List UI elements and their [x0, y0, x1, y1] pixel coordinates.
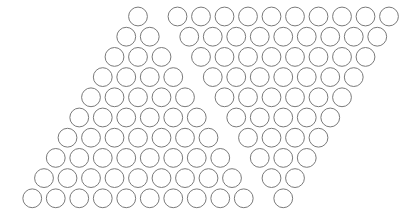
circle-marker: [70, 149, 89, 168]
circle-marker: [180, 27, 199, 46]
circle-marker: [344, 27, 363, 46]
circle-marker: [286, 7, 305, 26]
circle-marker: [368, 27, 387, 46]
circle-row: [46, 149, 229, 168]
circle-marker: [239, 7, 258, 26]
circle-marker: [223, 169, 242, 188]
circle-row: [82, 88, 195, 107]
circle-marker: [82, 128, 101, 147]
circle-marker: [129, 128, 148, 147]
circle-marker: [262, 169, 281, 188]
circle-marker: [274, 68, 293, 87]
circle-marker: [164, 108, 183, 127]
circle-marker: [274, 108, 293, 127]
circle-marker: [70, 189, 89, 208]
circle-marker: [239, 128, 258, 147]
circle-marker: [309, 88, 328, 107]
figure-root: [0, 0, 411, 219]
circle-marker: [262, 88, 281, 107]
circle-marker: [333, 48, 352, 67]
circle-marker: [23, 189, 42, 208]
circle-row: [35, 169, 242, 188]
circle-marker: [274, 27, 293, 46]
circle-marker: [129, 169, 148, 188]
circle-marker: [152, 48, 171, 67]
circle-marker: [286, 169, 305, 188]
circle-marker: [105, 88, 124, 107]
circle-marker: [176, 128, 195, 147]
circle-marker: [227, 27, 246, 46]
circle-marker: [176, 88, 195, 107]
circle-marker: [250, 149, 269, 168]
circle-marker: [164, 189, 183, 208]
circle-marker: [286, 48, 305, 67]
circle-row: [168, 7, 398, 26]
circle-marker: [321, 108, 340, 127]
circle-marker: [239, 88, 258, 107]
circle-marker: [309, 48, 328, 67]
circle-row: [227, 108, 340, 127]
circle-marker: [140, 108, 159, 127]
circle-marker: [140, 189, 159, 208]
circle-group-left-triangle: [23, 7, 253, 208]
circle-row: [117, 27, 159, 46]
circle-marker: [262, 128, 281, 147]
circle-marker: [82, 88, 101, 107]
circle-marker: [297, 27, 316, 46]
circle-marker: [129, 7, 148, 26]
circle-marker: [129, 48, 148, 67]
circle-row: [93, 68, 182, 87]
circle-marker: [105, 128, 124, 147]
circle-marker: [105, 169, 124, 188]
circle-marker: [250, 27, 269, 46]
circle-marker: [262, 48, 281, 67]
circle-marker: [164, 68, 183, 87]
circle-marker: [309, 128, 328, 147]
circle-marker: [211, 149, 230, 168]
circle-marker: [344, 68, 363, 87]
circle-row: [180, 27, 387, 46]
circle-marker: [140, 68, 159, 87]
circle-marker: [152, 128, 171, 147]
circle-row: [105, 48, 171, 67]
circle-marker: [203, 68, 222, 87]
circle-row: [70, 108, 206, 127]
circle-marker: [58, 128, 77, 147]
circle-marker: [286, 88, 305, 107]
circle-marker: [274, 189, 293, 208]
circle-marker: [93, 108, 112, 127]
circle-marker: [93, 149, 112, 168]
circle-marker: [93, 189, 112, 208]
circle-marker: [215, 48, 234, 67]
circle-marker: [333, 7, 352, 26]
circle-marker: [199, 169, 218, 188]
circle-row: [262, 169, 304, 188]
circle-row: [58, 128, 218, 147]
circle-marker: [234, 189, 253, 208]
circle-marker: [192, 7, 211, 26]
circle-marker: [286, 128, 305, 147]
circle-row: [192, 48, 375, 67]
circle-marker: [70, 108, 89, 127]
circle-marker: [117, 68, 136, 87]
circle-marker: [297, 68, 316, 87]
circle-marker: [82, 169, 101, 188]
circle-row: [203, 68, 363, 87]
circle-marker: [239, 48, 258, 67]
circle-marker: [105, 48, 124, 67]
circle-marker: [58, 169, 77, 188]
circle-marker: [140, 27, 159, 46]
circle-marker: [176, 169, 195, 188]
circle-marker: [321, 27, 340, 46]
circle-marker: [187, 189, 206, 208]
circle-marker: [117, 108, 136, 127]
circle-marker: [250, 68, 269, 87]
circle-marker: [117, 189, 136, 208]
circle-marker: [152, 88, 171, 107]
circle-marker: [203, 27, 222, 46]
circle-marker: [168, 7, 187, 26]
circle-marker: [250, 108, 269, 127]
circle-row: [215, 88, 351, 107]
circle-marker: [309, 7, 328, 26]
circle-marker: [164, 149, 183, 168]
